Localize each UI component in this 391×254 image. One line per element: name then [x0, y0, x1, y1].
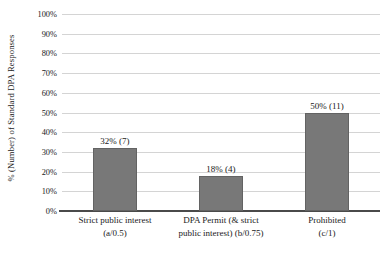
x-axis-category-2: DPA Permit (& strictpublic interest) (b/… — [168, 214, 274, 239]
y-axis-title-text: % (Number) of Standard DPA Responses — [6, 34, 16, 181]
x-axis-category-line: (c/1) — [274, 227, 380, 240]
y-axis-tick-40: 40% — [42, 128, 57, 137]
bar-group[interactable]: 18% (4) — [199, 14, 243, 211]
bar-group[interactable]: 50% (11) — [305, 14, 349, 211]
bar-value-label: 50% (11) — [310, 101, 343, 111]
y-axis-tick-labels: 100%90%80%70%60%50%40%30%20%10%0% — [22, 14, 60, 211]
bar[interactable] — [93, 148, 137, 211]
x-axis-category-line: DPA Permit (& strict — [168, 214, 274, 227]
y-axis-tick-70: 70% — [42, 69, 57, 78]
bar-chart: % (Number) of Standard DPA Responses 100… — [0, 0, 391, 254]
y-axis-tick-10: 10% — [42, 187, 57, 196]
y-axis-tick-50: 50% — [42, 108, 57, 117]
x-axis-category-line: public interest) (b/0.75) — [168, 227, 274, 240]
y-axis-tick-90: 90% — [42, 29, 57, 38]
x-axis-category-line: Strict public interest — [62, 214, 168, 227]
bar-value-label: 18% (4) — [206, 164, 235, 174]
y-axis-tick-60: 60% — [42, 88, 57, 97]
bar-value-label: 32% (7) — [100, 136, 129, 146]
x-axis-category-line: Prohibited — [274, 214, 380, 227]
plot-area: 32% (7)18% (4)50% (11) — [62, 14, 380, 211]
y-axis-tick-30: 30% — [42, 147, 57, 156]
x-axis-category-line: (a/0.5) — [62, 227, 168, 240]
bars-layer: 32% (7)18% (4)50% (11) — [62, 14, 380, 211]
y-axis-tick-20: 20% — [42, 167, 57, 176]
bar[interactable] — [305, 113, 349, 212]
y-axis-tick-80: 80% — [42, 49, 57, 58]
x-axis-category-1: Strict public interest(a/0.5) — [62, 214, 168, 239]
y-axis-tick-100: 100% — [37, 10, 57, 19]
x-axis-category-labels: Strict public interest(a/0.5)DPA Permit … — [62, 214, 380, 254]
bar[interactable] — [199, 176, 243, 211]
bar-group[interactable]: 32% (7) — [93, 14, 137, 211]
y-axis-tick-0: 0% — [46, 207, 57, 216]
x-axis-category-3: Prohibited(c/1) — [274, 214, 380, 239]
y-axis-title: % (Number) of Standard DPA Responses — [0, 0, 22, 215]
